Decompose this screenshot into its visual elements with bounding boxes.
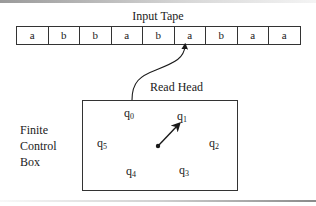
finite-control-box-label: Finite Control Box — [20, 122, 57, 170]
read-head-label: Read Head — [150, 80, 203, 95]
state-q0: q0 — [124, 106, 134, 121]
state-q5: q5 — [97, 136, 107, 151]
bottom-edge-shadow — [0, 200, 316, 202]
state-q3: q3 — [179, 163, 189, 178]
label-line: Box — [20, 154, 57, 170]
label-line: Control — [20, 138, 57, 154]
state-q4: q4 — [126, 164, 136, 179]
state-q1: q1 — [177, 109, 187, 124]
state-q2: q2 — [209, 136, 219, 151]
label-line: Finite — [20, 122, 57, 138]
